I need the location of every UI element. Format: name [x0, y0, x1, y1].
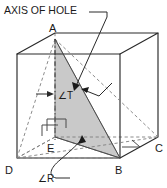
angle-r-leader-curve — [51, 140, 81, 178]
angle-t-pointer — [36, 91, 54, 97]
angle-t-arrow-head — [47, 91, 54, 97]
axis-secondary-tail — [99, 83, 112, 96]
axis-of-hole-label: AXIS OF HOLE — [4, 4, 77, 16]
cube-top-face — [17, 33, 158, 54]
figure-canvas: AXIS OF HOLE A B C D E ∠T ∠R — [0, 0, 167, 188]
angle-t-label: ∠T — [58, 90, 73, 101]
vertex-label-b: B — [115, 164, 122, 176]
vertex-label-c: C — [155, 142, 163, 154]
angle-r-label: ∠R — [38, 173, 54, 184]
geometry-figure: AXIS OF HOLE A B C D E ∠T ∠R — [0, 0, 167, 188]
angle-marker-c — [122, 140, 140, 147]
angle-bracket-c — [122, 140, 140, 147]
vertex-label-e: E — [47, 142, 54, 154]
vertex-label-a: A — [49, 22, 57, 34]
cube-right-face — [120, 33, 158, 158]
axis-leader-diagonal — [76, 17, 107, 86]
vertex-label-d: D — [5, 164, 13, 176]
